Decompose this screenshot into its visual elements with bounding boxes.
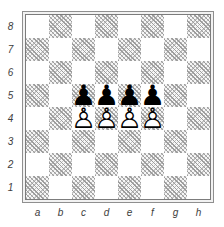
file-label-e: e [118,206,141,220]
board-frame: ♟♟♟♟♟♙♟♙♟♙♟♙ [22,11,214,203]
white-pawn-icon: ♟♙ [117,107,142,130]
white-pawn-icon: ♟♙ [140,107,165,130]
rank-label-5: 5 [2,84,19,107]
square-b3 [49,130,72,153]
square-f1 [141,176,164,199]
square-h8 [187,15,210,38]
square-g4 [164,107,187,130]
white-pawn-icon: ♟♙ [94,107,119,130]
square-e2 [118,153,141,176]
rank-label-8: 8 [2,15,19,38]
square-a4 [26,107,49,130]
square-e4: ♟♙ [118,107,141,130]
square-c4: ♟♙ [72,107,95,130]
square-b4 [49,107,72,130]
square-g8 [164,15,187,38]
rank-label-2: 2 [2,153,19,176]
square-e1 [118,176,141,199]
file-label-f: f [141,206,164,220]
square-h7 [187,38,210,61]
square-b6 [49,61,72,84]
file-label-b: b [49,206,72,220]
square-g2 [164,153,187,176]
square-a1 [26,176,49,199]
square-b1 [49,176,72,199]
rank-label-1: 1 [2,176,19,199]
square-a8 [26,15,49,38]
square-a6 [26,61,49,84]
square-g7 [164,38,187,61]
square-g3 [164,130,187,153]
square-c1 [72,176,95,199]
square-d8 [95,15,118,38]
rank-label-3: 3 [2,130,19,153]
square-a2 [26,153,49,176]
square-g1 [164,176,187,199]
square-b7 [49,38,72,61]
square-b8 [49,15,72,38]
square-a7 [26,38,49,61]
square-a3 [26,130,49,153]
square-f4: ♟♙ [141,107,164,130]
square-b2 [49,153,72,176]
square-h3 [187,130,210,153]
square-d7 [95,38,118,61]
square-a5 [26,84,49,107]
rank-label-6: 6 [2,61,19,84]
square-h1 [187,176,210,199]
board: ♟♟♟♟♟♙♟♙♟♙♟♙ [25,14,211,200]
white-pawn-icon: ♟♙ [71,107,96,130]
chess-diagram: ♟♟♟♟♟♙♟♙♟♙♟♙ 87654321abcdefgh [0,0,224,227]
square-c8 [72,15,95,38]
square-h2 [187,153,210,176]
rank-label-7: 7 [2,38,19,61]
square-e8 [118,15,141,38]
square-b5 [49,84,72,107]
square-f7 [141,38,164,61]
file-label-a: a [26,206,49,220]
square-g6 [164,61,187,84]
square-d4: ♟♙ [95,107,118,130]
square-c7 [72,38,95,61]
rank-label-4: 4 [2,107,19,130]
file-label-c: c [72,206,95,220]
square-d2 [95,153,118,176]
square-e7 [118,38,141,61]
file-label-h: h [187,206,210,220]
square-h5 [187,84,210,107]
square-g5 [164,84,187,107]
square-h6 [187,61,210,84]
square-f2 [141,153,164,176]
square-h4 [187,107,210,130]
square-c2 [72,153,95,176]
file-label-d: d [95,206,118,220]
square-d1 [95,176,118,199]
file-label-g: g [164,206,187,220]
square-f8 [141,15,164,38]
